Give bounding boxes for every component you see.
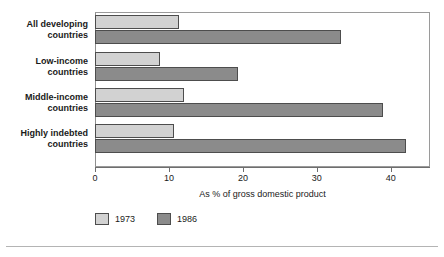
x-axis-tick-label: 0 xyxy=(92,173,97,183)
x-axis-tick xyxy=(391,167,392,172)
bar-1986 xyxy=(95,67,238,81)
x-axis-tick xyxy=(243,167,244,172)
category-label-line: countries xyxy=(0,67,88,78)
x-axis-tick-label: 30 xyxy=(312,173,322,183)
bar-plot-area xyxy=(95,12,430,167)
x-axis-tick-label: 10 xyxy=(164,173,174,183)
legend-label-1973: 1973 xyxy=(115,214,135,224)
x-axis-tick xyxy=(317,167,318,172)
chart-figure: All developing countries Low-income coun… xyxy=(0,0,444,257)
category-label-all-developing-countries: All developing countries xyxy=(0,19,88,41)
legend-swatch-1973 xyxy=(95,213,109,225)
bar-group-all-developing-countries xyxy=(95,15,430,48)
x-axis-tick-label: 40 xyxy=(386,173,396,183)
category-label-low-income-countries: Low-income countries xyxy=(0,56,88,78)
bar-1973 xyxy=(95,52,160,66)
bar-1986 xyxy=(95,30,341,44)
chart-legend: 1973 1986 xyxy=(95,213,197,225)
bar-1973 xyxy=(95,88,184,102)
category-label-line: countries xyxy=(0,103,88,114)
bar-group-highly-indebted-countries xyxy=(95,124,430,157)
legend-item-1986: 1986 xyxy=(157,213,197,225)
bar-group-low-income-countries xyxy=(95,52,430,85)
legend-item-1973: 1973 xyxy=(95,213,135,225)
bar-1973 xyxy=(95,124,174,138)
x-axis-title: As % of gross domestic product xyxy=(95,189,430,199)
category-label-line: countries xyxy=(0,30,88,41)
category-label-line: Highly indebted xyxy=(0,128,88,139)
legend-label-1986: 1986 xyxy=(177,214,197,224)
bottom-divider xyxy=(6,246,438,247)
x-axis-line xyxy=(95,167,430,168)
category-label-line: countries xyxy=(0,139,88,150)
x-axis-tick xyxy=(95,167,96,172)
legend-swatch-1986 xyxy=(157,213,171,225)
category-label-highly-indebted-countries: Highly indebted countries xyxy=(0,128,88,150)
bar-1986 xyxy=(95,139,406,153)
bar-1973 xyxy=(95,15,179,29)
x-axis-tick xyxy=(169,167,170,172)
category-label-line: All developing xyxy=(0,19,88,30)
category-label-middle-income-countries: Middle-income countries xyxy=(0,92,88,114)
category-label-line: Low-income xyxy=(0,56,88,67)
x-axis-tick-label: 20 xyxy=(238,173,248,183)
category-label-line: Middle-income xyxy=(0,92,88,103)
bar-group-middle-income-countries xyxy=(95,88,430,121)
category-axis-labels: All developing countries Low-income coun… xyxy=(0,12,92,167)
bar-1986 xyxy=(95,103,383,117)
